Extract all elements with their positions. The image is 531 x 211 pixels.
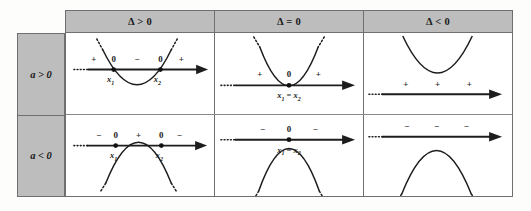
root-point-tangent: [287, 83, 292, 88]
root-label-x2: x2: [155, 151, 163, 161]
root-label-double: x1 = x2: [276, 91, 300, 101]
sign-left: −: [96, 130, 101, 140]
curve-dashed-left: [97, 39, 103, 50]
curve-dashed-left: [399, 194, 402, 196]
cell-a-negative-delta-positive: − 0 + 0 − x1 x2: [66, 115, 214, 196]
axis-arrowhead: [196, 65, 208, 74]
sign-left: +: [257, 69, 262, 79]
axis-arrowhead: [342, 135, 355, 144]
sign-right: −: [313, 124, 318, 134]
cell-a-positive-delta-negative: + + +: [363, 33, 512, 114]
sign-left: +: [91, 54, 96, 64]
diagram-parabola-up-no-roots: + + +: [364, 33, 512, 114]
zero-middle: 0: [287, 124, 292, 134]
row-header-a-negative: a < 0: [18, 115, 64, 197]
root-point-tangent: [287, 137, 292, 142]
sign-1: +: [403, 79, 408, 89]
column-header-delta-positive: Δ > 0: [66, 11, 214, 32]
row-header-label: a < 0: [30, 150, 52, 161]
sign-middle: −: [134, 54, 139, 64]
zero-right: 0: [159, 130, 164, 140]
cell-a-positive-delta-zero: + 0 + x1 = x2: [214, 33, 363, 114]
diagram-parabola-down-tangent: − 0 − x1 = x2: [215, 115, 363, 196]
table-body: + 0 − 0 + x1 x2: [65, 33, 513, 197]
axis-arrowhead: [342, 81, 355, 90]
sign-1: −: [404, 121, 409, 131]
zero-left: 0: [113, 130, 118, 140]
sign-2: −: [434, 121, 439, 131]
parabola-curve: [402, 151, 472, 194]
curve-dashed-right: [171, 39, 177, 50]
curve-dashed-right: [319, 191, 322, 196]
sign-table: Δ > 0 Δ = 0 Δ < 0 a > 0 a < 0: [17, 10, 513, 197]
cell-a-positive-delta-positive: + 0 − 0 + x1 x2: [66, 33, 214, 114]
curve-dashed-right: [318, 37, 324, 47]
column-header-label: Δ < 0: [426, 16, 450, 27]
sign-right: −: [177, 130, 182, 140]
diagram-parabola-down-no-roots: − − −: [364, 115, 512, 196]
parabola-curve: [106, 142, 172, 183]
root-point-x2: [159, 143, 164, 148]
sign-2: +: [435, 79, 440, 89]
parabola-curve: [260, 47, 319, 86]
sign-right: +: [179, 54, 184, 64]
sign-middle: +: [136, 130, 141, 140]
parabola-curve: [259, 149, 320, 191]
sign-left: −: [260, 124, 265, 134]
cell-a-negative-delta-zero: − 0 − x1 = x2: [214, 115, 363, 196]
zero-middle: 0: [287, 69, 292, 79]
curve-dashed-right: [471, 194, 474, 196]
sign-3: +: [467, 79, 472, 89]
root-point-x1: [113, 143, 118, 148]
axis-arrowhead: [489, 132, 502, 141]
sign-right: +: [316, 69, 321, 79]
column-header-label: Δ > 0: [128, 16, 152, 27]
diagram-parabola-down-two-roots: − 0 + 0 − x1 x2: [66, 115, 214, 196]
diagram-parabola-up-two-roots: + 0 − 0 + x1 x2: [66, 33, 214, 114]
root-point-x2: [158, 67, 163, 72]
root-label-x1: x1: [109, 151, 117, 161]
zero-right: 0: [158, 54, 163, 64]
quadratic-sign-table-figure: Δ > 0 Δ = 0 Δ < 0 a > 0 a < 0: [0, 0, 531, 211]
axis-arrowhead: [195, 141, 207, 150]
root-label-double: x1 = x2: [276, 146, 300, 156]
column-header-delta-zero: Δ = 0: [214, 11, 363, 32]
row-header-a-positive: a > 0: [18, 34, 64, 115]
root-label-x1: x1: [106, 75, 114, 85]
table-header-row: Δ > 0 Δ = 0 Δ < 0: [65, 10, 513, 33]
cell-a-negative-delta-negative: − − −: [363, 115, 512, 196]
table-row-a-positive: + 0 − 0 + x1 x2: [66, 33, 512, 114]
diagram-parabola-up-tangent: + 0 + x1 = x2: [215, 33, 363, 114]
column-header-label: Δ = 0: [277, 16, 301, 27]
curve-dashed-left: [254, 37, 260, 47]
row-header-label: a > 0: [30, 69, 52, 80]
curve-dashed-left: [101, 183, 106, 191]
curve-dashed-left: [256, 191, 259, 196]
sign-3: −: [464, 121, 469, 131]
curve-dashed-right: [171, 183, 176, 191]
table-row-a-negative: − 0 + 0 − x1 x2: [66, 114, 512, 196]
axis-arrowhead: [489, 90, 502, 99]
root-label-x2: x2: [153, 75, 161, 85]
column-header-delta-negative: Δ < 0: [363, 11, 512, 32]
parabola-curve: [403, 36, 473, 73]
zero-left: 0: [111, 54, 116, 64]
root-point-x1: [111, 67, 116, 72]
row-label-column: a > 0 a < 0: [17, 33, 65, 197]
